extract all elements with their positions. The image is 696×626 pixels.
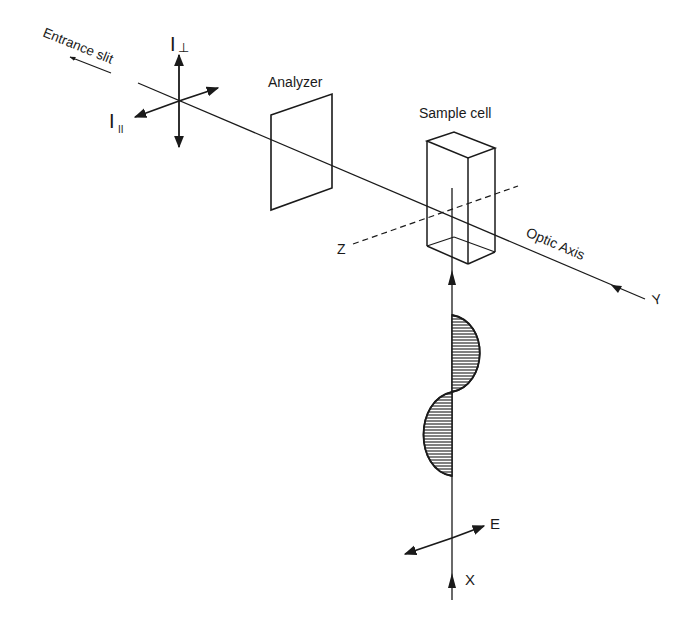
i-perpendicular-label: I ⊥	[170, 33, 189, 55]
svg-text:I: I	[170, 33, 176, 55]
svg-text:⊥: ⊥	[178, 40, 189, 55]
optical-diagram: Entrance slit I ⊥ I II Analyzer Z Sa	[0, 0, 696, 626]
z-axis-dashed	[353, 186, 518, 244]
svg-text:I: I	[109, 110, 115, 132]
analyzer-plate	[271, 94, 332, 210]
sample-cell-label: Sample cell	[419, 105, 491, 121]
sample-cell-box	[427, 132, 495, 264]
optic-axis-line	[138, 83, 645, 299]
i-parallel-label: I II	[109, 110, 124, 135]
polarization-crosshair	[135, 55, 218, 147]
electric-field-wave	[424, 315, 480, 476]
e-field-label: E	[490, 515, 500, 532]
optic-axis-label: Optic Axis	[524, 224, 588, 263]
e-field-arrow	[405, 526, 484, 554]
y-axis-label: Y	[651, 290, 664, 307]
svg-text:II: II	[118, 124, 124, 135]
z-axis-label: Z	[337, 241, 346, 257]
x-axis-label: X	[465, 571, 475, 588]
analyzer-label: Analyzer	[268, 74, 323, 90]
